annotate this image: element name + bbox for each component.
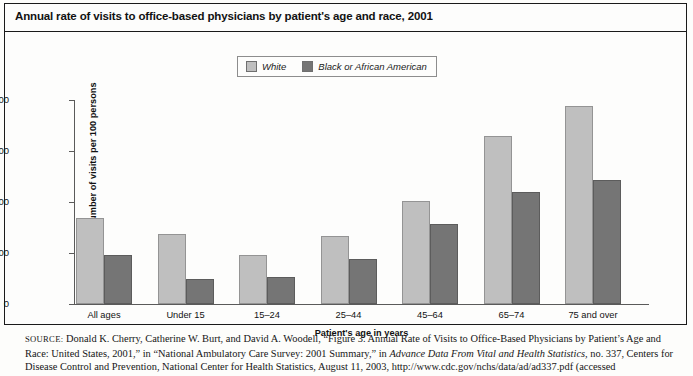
y-tick-label: 400: [0, 196, 9, 207]
y-tick-label: 600: [0, 145, 9, 156]
y-tick-label: 200: [0, 247, 9, 258]
source-note: SOURCE: Donald K. Cherry, Catherine W. B…: [25, 332, 677, 374]
bar-black-or-african-american: [512, 192, 540, 304]
y-tick-mark: [69, 100, 74, 101]
bar-white: [321, 236, 349, 304]
bar-group: All ages: [76, 100, 132, 304]
title-band: Annual rate of visits to office-based ph…: [5, 4, 686, 32]
bar-group: Under 15: [158, 100, 214, 304]
y-tick-label: 800: [0, 94, 9, 105]
legend-label-black-or-african-american: Black or African American: [318, 61, 427, 72]
bar-groups: All agesUnder 1515–2425–4445–6465–7475 a…: [75, 100, 649, 305]
bar-black-or-african-american: [430, 224, 458, 304]
bar-white: [565, 106, 593, 304]
figure-container: Annual rate of visits to office-based ph…: [4, 3, 687, 325]
bar-white: [484, 136, 512, 304]
y-tick-mark: [69, 151, 74, 152]
bar-black-or-african-american: [593, 180, 621, 304]
bar-group: 15–24: [239, 100, 295, 304]
chart-legend: White Black or African American: [237, 56, 437, 77]
x-category-label: 75 and over: [543, 310, 643, 320]
legend-entry-black-or-african-american: Black or African American: [302, 61, 427, 72]
legend-label-white: White: [262, 61, 286, 72]
plot-area: Number of visits per 100 persons 8006004…: [74, 100, 649, 305]
bar-white: [402, 201, 430, 304]
bar-black-or-african-american: [186, 279, 214, 305]
bar-group: 65–74: [484, 100, 540, 304]
bar-group: 75 and over: [565, 100, 621, 304]
bar-group: 25–44: [321, 100, 377, 304]
y-tick-mark: [69, 202, 74, 203]
bar-black-or-african-american: [267, 277, 295, 304]
legend-swatch-white: [246, 61, 257, 72]
y-tick-mark: [69, 304, 74, 305]
source-publication-title: Advance Data From Vital and Health Stati…: [389, 348, 587, 359]
bar-white: [158, 234, 186, 304]
chart-title: Annual rate of visits to office-based ph…: [15, 10, 433, 22]
bar-black-or-african-american: [349, 259, 377, 304]
source-keyword: SOURCE:: [25, 334, 63, 344]
legend-entry-white: White: [246, 61, 286, 72]
bar-white: [239, 255, 267, 304]
figure-page: Annual rate of visits to office-based ph…: [0, 0, 693, 376]
legend-swatch-black-or-african-american: [302, 61, 313, 72]
bar-white: [76, 218, 104, 304]
bar-group: 45–64: [402, 100, 458, 304]
bar-black-or-african-american: [104, 255, 132, 304]
y-tick-mark: [69, 253, 74, 254]
y-tick-label: 0: [0, 298, 9, 309]
